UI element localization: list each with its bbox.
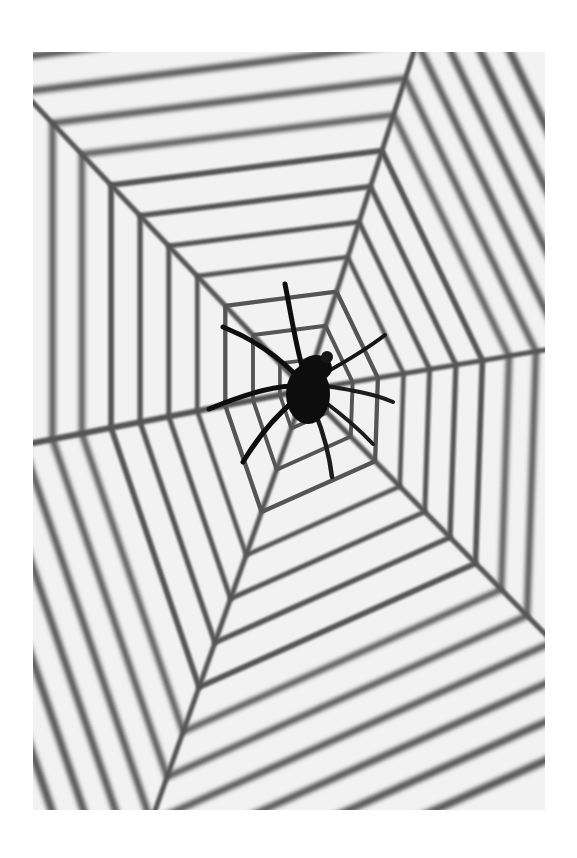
web-scene [33, 52, 545, 810]
page [0, 0, 577, 858]
spider-web-photo [33, 52, 545, 810]
